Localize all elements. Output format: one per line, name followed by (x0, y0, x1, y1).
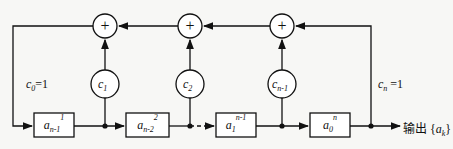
coef-label-1: c1 (98, 78, 107, 93)
output-label: 输出 {ak} (403, 119, 451, 138)
register-label-3: a1n-1 (216, 119, 256, 134)
register-label-4: a0n (310, 119, 350, 134)
register-label-1: an-11 (34, 119, 74, 134)
feedback-left-line (13, 26, 93, 126)
junction-3 (279, 123, 284, 128)
coef-label-2: c2 (183, 78, 192, 93)
junction-4 (368, 123, 373, 128)
c0-label: c0=1 (26, 78, 48, 93)
cn-label: cn =1 (378, 78, 403, 93)
junction-2 (187, 123, 192, 128)
adder-plus-1: + (100, 17, 109, 34)
coef-label-3: cn-1 (272, 78, 288, 93)
adder-plus-2: + (185, 17, 194, 34)
junction-1 (102, 123, 107, 128)
feedback-right-line (296, 26, 371, 126)
adder-plus-3: + (277, 17, 286, 34)
register-label-2: an-22 (126, 119, 169, 134)
